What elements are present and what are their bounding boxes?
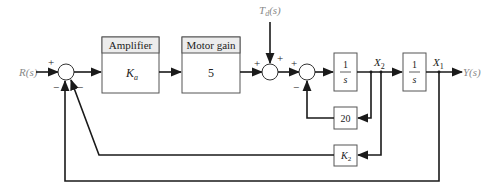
summing-junction-3 — [299, 64, 315, 80]
20-to-sum3-feedback-path — [307, 81, 334, 118]
sum2-plus-sign-left: + — [254, 57, 260, 69]
motor-gain-value: 5 — [208, 66, 214, 80]
x2-to-20-feedback-path — [358, 72, 371, 118]
input-label: R(s) — [18, 66, 38, 79]
integrator-1-block: 1 s — [334, 53, 357, 91]
sum1-minus-sign-left: − — [53, 81, 59, 93]
x1-label: X1 — [432, 56, 444, 71]
svg-text:s: s — [344, 74, 348, 85]
sum3-minus-sign: − — [293, 81, 299, 93]
sum1-plus-sign: + — [48, 56, 54, 68]
disturbance-label: Td(s) — [259, 4, 281, 18]
svg-text:s: s — [413, 74, 417, 85]
amplifier-header: Amplifier — [109, 39, 153, 51]
sum1-minus-sign-right: − — [77, 81, 83, 93]
svg-text:1: 1 — [343, 59, 348, 70]
svg-text:20: 20 — [341, 113, 351, 124]
sum3-plus-sign: + — [291, 57, 297, 69]
summing-junction-2 — [262, 64, 278, 80]
feedback-k2-block: K2 — [334, 145, 357, 166]
x2-label: X2 — [373, 56, 385, 71]
sum2-plus-sign-top: + — [277, 52, 283, 64]
summing-junction-1 — [58, 64, 74, 80]
amplifier-block: Amplifier Ka — [102, 37, 159, 93]
block-diagram: R(s) + − − Amplifier Ka Motor gain 5 Td(… — [0, 0, 491, 193]
feedback-20-block: 20 — [334, 107, 357, 129]
svg-text:1: 1 — [412, 59, 417, 70]
integrator-2-block: 1 s — [403, 53, 426, 91]
output-label: Y(s) — [463, 66, 481, 79]
motor-gain-header: Motor gain — [186, 39, 236, 51]
x2-to-k2-feedback-path — [358, 72, 381, 155]
motor-gain-block: Motor gain 5 — [182, 37, 240, 93]
